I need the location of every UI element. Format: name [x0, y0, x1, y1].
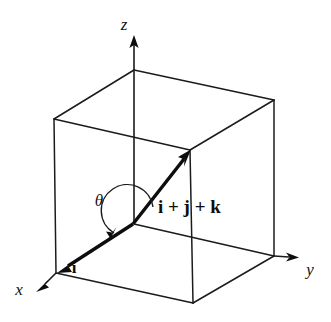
vector-diagram-figure: z y x θ i i + j + k: [0, 0, 331, 322]
cube-edge-top-back-left: [54, 70, 134, 119]
theta-angle-group: [101, 185, 153, 239]
cube-edge-top-back-right: [134, 70, 274, 100]
x-axis-label: x: [14, 280, 23, 299]
labels-group: z y x θ i i + j + k: [14, 15, 314, 299]
cube-edge-bottom-back-right: [134, 224, 274, 256]
theta-symbol-label: θ: [95, 191, 103, 210]
diagonal-vector-label: i + j + k: [158, 196, 221, 217]
vector-diagram-canvas: z y x θ i i + j + k: [0, 0, 331, 322]
z-axis-label: z: [120, 15, 128, 34]
cube-edge-bottom-front-left: [56, 273, 193, 303]
i-vector-label: i: [72, 258, 77, 277]
cube-edge-vertical-front: [190, 150, 193, 303]
cube-edge-vertical-left: [54, 119, 56, 273]
i-vector-shaft: [68, 224, 133, 266]
y-axis-line: [274, 256, 289, 257]
cube-edge-bottom-front-right: [193, 256, 274, 303]
y-axis-label: y: [304, 260, 314, 279]
cube-edge-top-front-left: [54, 119, 190, 150]
cube-edge-top-front-right: [190, 100, 274, 150]
i-vector-arrowhead: [57, 262, 73, 274]
x-axis-line: [45, 273, 56, 284]
